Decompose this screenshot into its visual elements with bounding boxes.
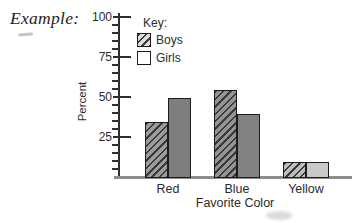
girls-empty-swatch-icon [137,51,151,65]
y-tick-label: 50 [78,90,112,104]
y-minor-tick [112,40,119,42]
x-category-label: Blue [207,182,267,196]
bar-girls-blue [237,114,260,178]
key-item-boys: Boys [137,33,183,47]
y-major-tick [113,96,131,98]
y-tick-label: 75 [78,50,112,64]
bar-girls-yellow [306,162,329,178]
x-category-label: Red [138,182,198,196]
y-minor-tick [112,104,119,106]
y-minor-tick [112,112,119,114]
chart-key: Key: Boys Girls [137,16,183,69]
bar-boys-yellow [283,162,306,178]
key-item-girls: Girls [137,51,183,65]
scan-artifact [266,211,292,220]
x-category-label: Yellow [276,182,336,196]
example-label: Example: [10,8,79,29]
y-minor-tick [112,24,119,26]
y-minor-tick [112,168,119,170]
bar-chart-figure: Example: Percent 255075100 RedBlueYellow… [0,0,364,223]
y-minor-tick [112,80,119,82]
y-minor-tick [112,88,119,90]
y-minor-tick [112,32,119,34]
y-major-tick [113,16,131,18]
scan-artifact [18,32,33,36]
y-minor-tick [112,120,119,122]
y-minor-tick [112,72,119,74]
y-minor-tick [112,144,119,146]
bar-boys-blue [214,90,237,178]
key-item-label: Girls [156,51,181,65]
y-minor-tick [112,48,119,50]
y-major-tick [113,136,131,138]
key-item-label: Boys [156,33,183,47]
y-minor-tick [112,128,119,130]
y-tick-label: 100 [78,10,112,24]
boys-hatched-swatch-icon [137,33,151,47]
bar-girls-red [168,98,191,178]
y-major-tick [113,56,131,58]
x-axis-title: Favorite Color [175,196,295,210]
key-title: Key: [143,16,183,30]
y-tick-label: 25 [78,130,112,144]
y-minor-tick [112,160,119,162]
y-minor-tick [112,152,119,154]
y-minor-tick [112,64,119,66]
bar-boys-red [145,122,168,178]
